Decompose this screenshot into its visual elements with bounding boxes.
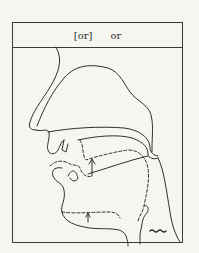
pharynx-wall [158, 158, 180, 242]
jaw-dashed [62, 212, 120, 218]
tongue-contour [88, 156, 148, 174]
voicing-mark-icon [150, 230, 166, 232]
lower-lip [52, 168, 128, 246]
nose-profile [29, 47, 59, 130]
vocal-tract-diagram [0, 0, 199, 253]
upper-teeth [62, 140, 68, 152]
upper-lip [36, 130, 64, 154]
tongue-contour-dashed [80, 140, 149, 222]
jaw-raise-arrow [86, 213, 90, 222]
palate-lower [78, 136, 158, 159]
larynx-outline [140, 206, 148, 244]
lower-teeth [68, 171, 78, 181]
lower-lip-dashed [50, 161, 92, 176]
